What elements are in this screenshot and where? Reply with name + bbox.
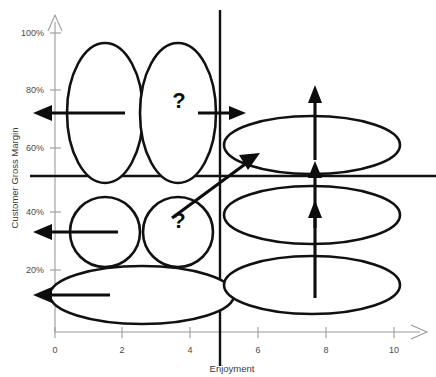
y-axis-title: Customer Gross Margin (9, 128, 20, 229)
y-tick-label-40: 40% (26, 207, 44, 217)
x-tick-label-8: 8 (323, 345, 328, 355)
x-tick-label-10: 10 (389, 345, 399, 355)
y-tick-label-60: 60% (26, 143, 44, 153)
question-mark-upper: ? (172, 88, 185, 113)
x-tick-label-4: 4 (187, 345, 192, 355)
y-tick-label-100: 100% (21, 28, 44, 38)
x-axis-title: Enjoyment (210, 363, 255, 374)
x-tick-label-group: 0 2 4 6 8 10 (52, 345, 399, 355)
chart-canvas: 100% 80% 60% 40% 20% 0 2 4 6 8 10 Custom… (0, 0, 436, 377)
y-tick-label-20: 20% (26, 265, 44, 275)
y-tick-label-group: 100% 80% 60% 40% 20% (21, 28, 44, 275)
x-tick-label-6: 6 (255, 345, 260, 355)
y-tick-label-80: 80% (26, 85, 44, 95)
x-tick-label-2: 2 (119, 345, 124, 355)
x-tick-label-0: 0 (52, 345, 57, 355)
bubble-lower-right-2[interactable] (224, 256, 400, 314)
quadrant-bubble-chart: 100% 80% 60% 40% 20% 0 2 4 6 8 10 Custom… (0, 0, 436, 377)
